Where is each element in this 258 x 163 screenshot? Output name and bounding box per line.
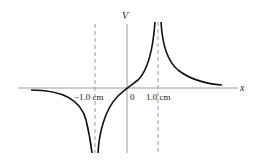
x-axis-label: x: [239, 82, 245, 93]
curve-right-outer: [161, 22, 222, 85]
potential-diagram: V x −1.0 cm 0 1.0 cm: [0, 0, 258, 163]
tick-label-neg: −1.0 cm: [74, 92, 104, 102]
tick-label-pos: 1.0 cm: [146, 92, 171, 102]
tick-label-zero: 0: [130, 92, 135, 102]
v-axis-label: V: [122, 10, 130, 21]
